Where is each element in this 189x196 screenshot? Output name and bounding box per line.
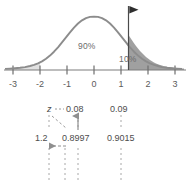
ztable-header-z: z — [47, 104, 52, 115]
ztable-cell-0-8997: 0.8997 — [62, 133, 90, 144]
ztable-row-label-1-2: 1.2 — [35, 133, 48, 144]
diagonal-dashed-guide — [52, 116, 66, 128]
axis-tick-label-2: 2 — [140, 79, 156, 89]
z-table-excerpt: z 0.08 0.09 1.2 0.8997 0.9015 — [0, 96, 189, 196]
ztable-header-0-09: 0.09 — [110, 104, 128, 115]
normal-curve-figure: -3 -2 -1 0 1 2 3 90% 10% — [0, 0, 189, 96]
axis-tick-label-1: 1 — [113, 79, 129, 89]
axis-tick-label--1: -1 — [59, 79, 75, 89]
axis-tick-label-0: 0 — [86, 79, 102, 89]
area-label-90-percent: 90% — [78, 41, 96, 51]
z-table-guides-svg — [0, 96, 189, 196]
axis-tick-label--2: -2 — [32, 79, 48, 89]
axis-tick-label-3: 3 — [167, 79, 183, 89]
figure-root: -3 -2 -1 0 1 2 3 90% 10% — [0, 0, 189, 196]
flag-banner-icon — [129, 6, 138, 14]
axis-tick-label--3: -3 — [5, 79, 21, 89]
ztable-cell-0-9015: 0.9015 — [107, 133, 135, 144]
column-dotted-rules — [49, 115, 121, 180]
ztable-header-0-08: 0.08 — [66, 104, 84, 115]
area-label-10-percent: 10% — [119, 54, 137, 64]
